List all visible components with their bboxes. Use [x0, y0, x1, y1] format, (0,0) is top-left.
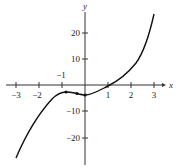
y-axis-label: y — [82, 1, 87, 11]
x-tick-label: 1 — [106, 90, 111, 100]
y-tick-label: −10 — [66, 106, 81, 116]
marked-point — [64, 90, 67, 93]
y-tick-label: 10 — [71, 54, 81, 64]
y-tick-label: 20 — [71, 28, 81, 38]
x-tick-label: −2 — [32, 90, 42, 100]
x-tick-label: 2 — [129, 90, 134, 100]
marked-point — [75, 92, 78, 95]
x-tick-label: 3 — [152, 90, 157, 100]
x-tick-label: −1 — [56, 70, 66, 80]
x-axis-label: x — [168, 80, 173, 90]
cubic-function-chart: −3 −2 −1 1 2 3 x 20 10 −10 −20 y — [0, 0, 182, 168]
x-tick-label: −3 — [11, 90, 21, 100]
y-tick-label: −20 — [66, 133, 81, 143]
x-axis-arrow-icon — [162, 83, 166, 87]
marked-point — [83, 93, 86, 96]
